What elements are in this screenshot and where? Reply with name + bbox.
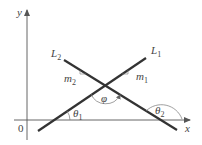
phi-label: φ xyxy=(101,92,107,104)
l2-label: L2 xyxy=(50,47,61,62)
intersecting-lines-diagram: y x 0 L1 L2 m1 m2 θ1 θ2 φ xyxy=(0,0,202,145)
y-axis-label: y xyxy=(16,6,22,18)
origin-label: 0 xyxy=(18,122,24,134)
m2-label: m2 xyxy=(64,72,76,87)
m1-label: m1 xyxy=(136,70,148,85)
x-axis-label: x xyxy=(184,122,190,134)
l1-label: L1 xyxy=(150,44,161,59)
